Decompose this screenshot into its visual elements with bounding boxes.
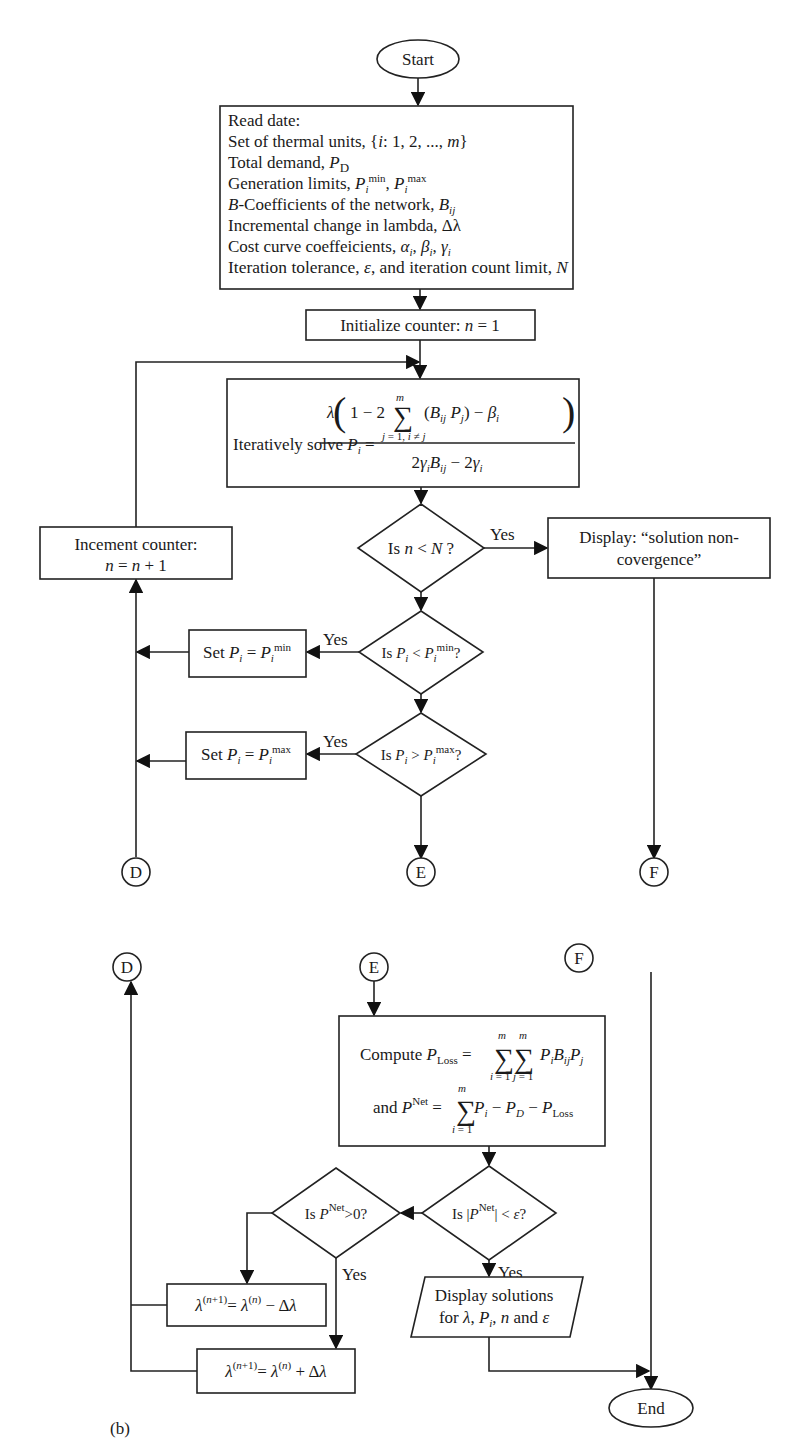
svg-text:F: F xyxy=(649,863,658,882)
compute-box: Compute PLoss = ∑∑ m m i = 1 j = 1 PiBij… xyxy=(339,1016,605,1146)
yes-label-min: Yes xyxy=(323,630,348,649)
start-terminal: Start xyxy=(377,40,459,78)
svg-text:∑: ∑ xyxy=(456,1095,476,1126)
svg-text:j = 1, i ≠ j: j = 1, i ≠ j xyxy=(380,430,425,442)
read-data-line-delta-lambda: Incremental change in lambda, Δλ xyxy=(228,216,462,235)
decision-n-lt-N: Is n < N ? xyxy=(358,504,484,592)
decision-n-label: Is n < N ? xyxy=(388,539,454,558)
read-data-line-units: Set of thermal units, {i: 1, 2, ..., m} xyxy=(228,132,468,151)
nonconvergence-box: Display: “solution non- covergence” xyxy=(548,518,770,578)
set-min-box: Set Pi = Pimin xyxy=(189,630,306,677)
svg-text:m: m xyxy=(396,391,404,403)
svg-text:i = 1: i = 1 xyxy=(452,1123,472,1135)
compute-line2: and PNet = xyxy=(373,1095,442,1117)
svg-text:E: E xyxy=(416,863,426,882)
solve-prefix: Iteratively solve Pi = xyxy=(233,435,375,456)
connector-E-bottom: E xyxy=(360,953,388,981)
start-label: Start xyxy=(402,50,434,69)
sum-symbol: ∑ xyxy=(393,401,413,432)
svg-text:): ) xyxy=(562,389,575,434)
svg-text:m: m xyxy=(519,1029,527,1041)
display-solutions-box: Display solutions for λ, Pi, n and ε xyxy=(411,1277,583,1337)
read-data-line-bcoeff: B-Coefficients of the network, Bij xyxy=(228,195,455,216)
read-data-line-tolerance: Iteration tolerance, ε, and iteration co… xyxy=(228,258,570,277)
svg-text:D: D xyxy=(130,863,142,882)
increment-line1: Incement counter: xyxy=(74,535,197,554)
solve-box: Iteratively solve Pi = λ ( 1 − 2 ∑ m j =… xyxy=(227,379,579,487)
set-max-box: Set Pi = Pimax xyxy=(186,732,306,779)
display-solutions-line1: Display solutions xyxy=(435,1286,554,1305)
connector-F-bottom: F xyxy=(565,944,593,972)
svg-text:i = 1 j = 1: i = 1 j = 1 xyxy=(490,1070,533,1082)
nonconvergence-line1: Display: “solution non- xyxy=(579,528,739,547)
end-label: End xyxy=(637,1399,665,1418)
yes-label-max: Yes xyxy=(323,732,348,751)
initialize-box: Initialize counter: n = 1 xyxy=(306,310,535,340)
svg-text:m: m xyxy=(498,1029,506,1041)
initialize-label: Initialize counter: n = 1 xyxy=(340,316,500,335)
svg-text:m: m xyxy=(458,1082,466,1094)
svg-text:F: F xyxy=(574,949,583,968)
display-solutions-line2: for λ, Pi, n and ε xyxy=(439,1308,549,1329)
decision-pmax: Is Pi > Pimax? xyxy=(356,713,486,796)
connector-D-bottom: D xyxy=(113,953,141,981)
svg-text:1 − 2: 1 − 2 xyxy=(350,403,385,422)
read-data-box: Read date: Set of thermal units, {i: 1, … xyxy=(220,106,573,289)
arrow-display-to-end xyxy=(489,1337,649,1371)
end-terminal: End xyxy=(609,1389,693,1427)
increment-line2: n = n + 1 xyxy=(105,556,167,575)
read-data-line-demand: Total demand, PD xyxy=(228,153,349,175)
flowchart: Start Read date: Set of thermal units, {… xyxy=(0,0,794,1450)
nonconvergence-line2: covergence” xyxy=(617,550,702,569)
read-data-line-cost-coeff: Cost curve coeffeicients, αi, βi, γi xyxy=(228,237,451,258)
lambda-plus-box: λ(n+1)= λ(n) + Δλ xyxy=(197,1349,355,1393)
svg-text:E: E xyxy=(369,958,379,977)
decision-pos: Is PNet>0? xyxy=(272,1168,400,1258)
svg-text:(: ( xyxy=(333,389,346,434)
read-data-title: Read date: xyxy=(228,111,300,130)
svg-text:D: D xyxy=(121,958,133,977)
decision-eps: Is |PNet| < ε? xyxy=(422,1166,556,1260)
lambda-minus-box: λ(n+1)= λ(n) − Δλ xyxy=(167,1284,326,1326)
read-data-line-limits: Generation limits, Pimin, Pimax xyxy=(228,172,427,195)
arrow-pos-no-to-minus xyxy=(247,1213,272,1283)
yes-label-pos: Yes xyxy=(342,1265,367,1284)
svg-text:PiBijPj: PiBijPj xyxy=(539,1045,583,1066)
connector-D-top: D xyxy=(122,858,150,886)
solve-denominator: 2γiBij − 2γi xyxy=(411,453,482,474)
figure-label: (b) xyxy=(110,1419,130,1438)
connector-F-top: F xyxy=(640,858,668,886)
decision-pmin: Is Pi < Pimin? xyxy=(359,611,483,694)
connector-E-top: E xyxy=(407,858,435,886)
yes-label-n: Yes xyxy=(490,525,515,544)
increment-box: Incement counter: n = n + 1 xyxy=(40,527,232,579)
